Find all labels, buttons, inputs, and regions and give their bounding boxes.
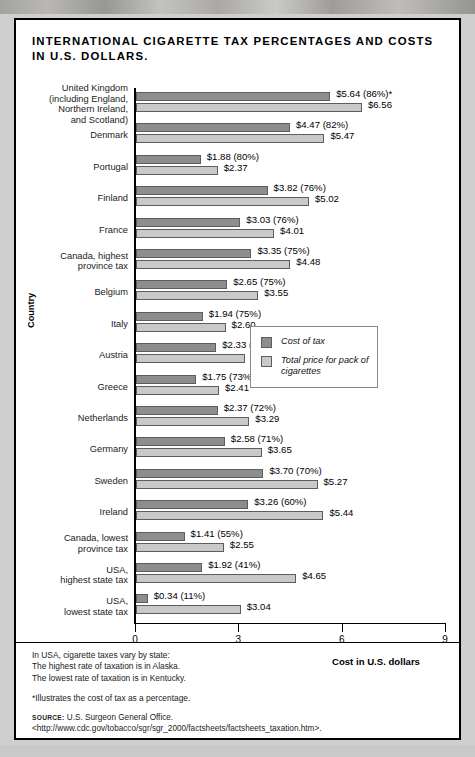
- x-axis-tick-label: 9: [442, 634, 448, 645]
- bar-value-label-total: $6.56: [368, 99, 392, 110]
- category-label: USA,lowest state tax: [18, 596, 128, 617]
- category-label: Sweden: [18, 476, 128, 487]
- bar-value-label-tax: $3.03 (76%): [246, 214, 298, 225]
- bar-value-label-tax: $0.34 (11%): [154, 590, 206, 601]
- bar-total-price: [136, 417, 249, 426]
- x-axis-tick: [342, 623, 343, 632]
- bar-value-label-total: $3.65: [268, 444, 292, 455]
- bar-value-label-tax: $2.37 (72%): [224, 402, 276, 413]
- x-axis-tick-label: 0: [132, 634, 138, 645]
- bar-value-label-total: $4.48: [296, 256, 320, 267]
- bar-value-label-total: $2.37: [224, 162, 248, 173]
- bar-cost-of-tax: [136, 532, 185, 541]
- x-axis-line: [134, 623, 446, 624]
- bar-value-label-tax: $5.64 (86%)*: [336, 88, 392, 99]
- category-label: Italy: [18, 319, 128, 330]
- bar-value-label-tax: $3.35 (75%): [257, 245, 309, 256]
- bar-total-price: [136, 354, 245, 363]
- bar-cost-of-tax: [136, 155, 201, 164]
- legend-item-total-price: Total price for pack of cigarettes: [261, 355, 369, 377]
- bar-value-label-tax: $2.58 (71%): [231, 433, 283, 444]
- legend-swatch-total-price: [261, 356, 272, 367]
- chart-legend: Cost of tax Total price for pack of ciga…: [250, 326, 378, 388]
- category-label: Netherlands: [18, 413, 128, 424]
- bar-value-label-total: $4.65: [302, 570, 326, 581]
- bar-value-label-total: $3.55: [264, 287, 288, 298]
- bar-cost-of-tax: [136, 375, 196, 384]
- bar-value-label-total: $5.47: [330, 130, 354, 141]
- bar-value-label-total: $2.41: [225, 382, 249, 393]
- x-axis-tick: [135, 623, 136, 632]
- bar-value-label-tax: $3.26 (60%): [254, 496, 306, 507]
- figure-panel: INTERNATIONAL CIGARETTE TAX PERCENTAGES …: [14, 18, 461, 740]
- bar-total-price: [136, 323, 226, 332]
- category-label: Canada, lowestprovince tax: [18, 533, 128, 554]
- bar-value-label-tax: $4.47 (82%): [296, 119, 348, 130]
- legend-item-cost-of-tax: Cost of tax: [261, 336, 369, 348]
- legend-label-total-price: Total price for pack of cigarettes: [281, 355, 369, 377]
- bar-cost-of-tax: [136, 123, 290, 132]
- category-label: Portugal: [18, 162, 128, 173]
- bar-value-label-tax: $1.41 (55%): [191, 528, 243, 539]
- notes-block: In USA, cigarette taxes vary by state: T…: [32, 650, 442, 734]
- bar-total-price: [136, 229, 274, 238]
- bar-total-price: [136, 291, 258, 300]
- bar-cost-of-tax: [136, 249, 251, 258]
- x-axis-tick: [238, 623, 239, 632]
- bar-total-price: [136, 543, 224, 552]
- bar-total-price: [136, 134, 324, 143]
- category-label: Canada, highestprovince tax: [18, 251, 128, 272]
- bar-chart-plot-area: Country United Kingdom(including England…: [32, 78, 446, 626]
- source-label: SOURCE:: [32, 714, 65, 721]
- x-axis-tick: [445, 623, 446, 632]
- category-label: France: [18, 225, 128, 236]
- bar-total-price: [136, 574, 296, 583]
- bar-total-price: [136, 386, 219, 395]
- category-label: United Kingdom(including England,Norther…: [18, 83, 128, 125]
- bar-total-price: [136, 448, 262, 457]
- footnote-text: *Illustrates the cost of tax as a percen…: [32, 693, 442, 703]
- bar-value-label-tax: $1.88 (80%): [207, 151, 259, 162]
- category-label: USA,highest state tax: [18, 565, 128, 586]
- bar-value-label-total: $5.02: [315, 193, 339, 204]
- bar-cost-of-tax: [136, 92, 330, 101]
- bar-value-label-total: $3.29: [255, 413, 279, 424]
- bar-cost-of-tax: [136, 563, 202, 572]
- category-label: Denmark: [18, 130, 128, 141]
- bar-cost-of-tax: [136, 437, 225, 446]
- category-label: Greece: [18, 382, 128, 393]
- category-label: Finland: [18, 193, 128, 204]
- page-top-decoration: [0, 0, 475, 14]
- bar-total-price: [136, 511, 323, 520]
- page-title: INTERNATIONAL CIGARETTE TAX PERCENTAGES …: [32, 34, 442, 64]
- category-label: Ireland: [18, 507, 128, 518]
- category-label: Austria: [18, 350, 128, 361]
- bar-value-label-total: $2.55: [230, 539, 254, 550]
- bar-total-price: [136, 103, 362, 112]
- note-line: The highest rate of taxation is in Alask…: [32, 661, 442, 672]
- bar-total-price: [136, 260, 290, 269]
- bar-value-label-tax: $3.82 (76%): [274, 182, 326, 193]
- bar-cost-of-tax: [136, 343, 216, 352]
- bar-value-label-total: $4.01: [280, 225, 304, 236]
- page-bottom-decoration: [0, 745, 475, 757]
- bar-value-label-tax: $3.70 (70%): [269, 465, 321, 476]
- bar-total-price: [136, 480, 318, 489]
- bar-value-label-tax: $1.92 (41%): [208, 559, 260, 570]
- bar-cost-of-tax: [136, 218, 240, 227]
- bar-cost-of-tax: [136, 406, 218, 415]
- bar-cost-of-tax: [136, 312, 203, 321]
- bar-cost-of-tax: [136, 500, 248, 509]
- bar-total-price: [136, 166, 218, 175]
- bar-cost-of-tax: [136, 469, 263, 478]
- bar-value-label-tax: $1.94 (75%): [209, 308, 261, 319]
- bar-value-label-total: $3.04: [247, 601, 271, 612]
- source-text: U.S. Surgeon General Office. <http://www…: [32, 713, 321, 733]
- x-axis-tick-label: 6: [339, 634, 345, 645]
- notes-divider: [16, 642, 459, 643]
- note-line: In USA, cigarette taxes vary by state:: [32, 650, 442, 661]
- bar-cost-of-tax: [136, 280, 227, 289]
- bar-cost-of-tax: [136, 186, 268, 195]
- source-citation: SOURCE: U.S. Surgeon General Office. <ht…: [32, 712, 442, 734]
- bar-cost-of-tax: [136, 594, 148, 603]
